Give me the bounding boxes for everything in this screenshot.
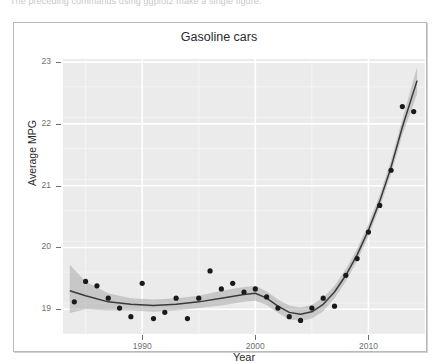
x-tick-label: 1990 xyxy=(122,341,162,351)
x-tick-mark xyxy=(368,335,369,340)
y-tick-label: 22 xyxy=(29,118,51,128)
x-tick-mark xyxy=(255,335,256,340)
data-point xyxy=(128,314,133,319)
plot-panel xyxy=(63,59,425,334)
y-tick-mark xyxy=(56,186,61,187)
data-point xyxy=(400,104,405,109)
data-point xyxy=(253,286,258,291)
cutoff-caption-text: The preceding commands using ggplot2 mak… xyxy=(10,0,440,8)
data-point xyxy=(275,305,280,310)
chart-title: Gasoline cars xyxy=(13,30,425,44)
x-tick-label: 2010 xyxy=(348,341,388,351)
data-point xyxy=(366,229,371,234)
y-tick-mark xyxy=(56,247,61,248)
chart-container: Gasoline cars Average MPG Year 192021222… xyxy=(13,22,425,350)
y-tick-mark xyxy=(56,62,61,63)
data-point xyxy=(309,305,314,310)
data-point xyxy=(298,318,303,323)
y-tick-label: 19 xyxy=(29,303,51,313)
data-point xyxy=(287,314,292,319)
data-point xyxy=(332,304,337,309)
data-point xyxy=(72,299,77,304)
data-point xyxy=(321,296,326,301)
y-tick-label: 21 xyxy=(29,180,51,190)
y-tick-label: 20 xyxy=(29,241,51,251)
data-point xyxy=(117,305,122,310)
data-point xyxy=(388,168,393,173)
data-point xyxy=(411,109,416,114)
y-tick-label: 23 xyxy=(29,56,51,66)
screenshot-root: The preceding commands using ggplot2 mak… xyxy=(0,0,447,364)
data-point xyxy=(264,294,269,299)
data-point xyxy=(219,286,224,291)
x-tick-mark xyxy=(142,335,143,340)
plot-svg xyxy=(63,59,425,334)
x-axis-title: Year xyxy=(63,351,425,363)
data-point xyxy=(106,296,111,301)
smooth-fit-line xyxy=(70,81,417,315)
data-point xyxy=(207,268,212,273)
data-point xyxy=(230,281,235,286)
data-point xyxy=(94,283,99,288)
data-point xyxy=(174,296,179,301)
x-tick-label: 2000 xyxy=(235,341,275,351)
confidence-band xyxy=(70,67,417,321)
data-point xyxy=(343,273,348,278)
data-point xyxy=(355,256,360,261)
data-point xyxy=(377,203,382,208)
data-point xyxy=(185,316,190,321)
y-tick-mark xyxy=(56,309,61,310)
data-point xyxy=(140,281,145,286)
y-tick-mark xyxy=(56,124,61,125)
data-point xyxy=(151,316,156,321)
data-point xyxy=(196,296,201,301)
data-point xyxy=(83,279,88,284)
data-point xyxy=(162,310,167,315)
data-point xyxy=(241,289,246,294)
